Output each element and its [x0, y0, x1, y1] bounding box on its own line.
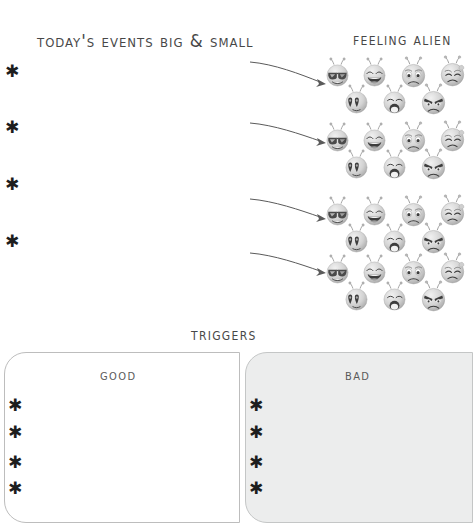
- good-trigger-bullet-marker[interactable]: ✱: [8, 398, 22, 412]
- bad-box-heading: Bad: [345, 366, 370, 384]
- alien-face-cluster-row-4: [322, 254, 472, 312]
- bad-trigger-bullet-marker[interactable]: ✱: [249, 398, 263, 412]
- alien-face-cluster-row-2: [322, 122, 472, 180]
- angry-alien-face[interactable]: [417, 280, 450, 313]
- good-trigger-bullet-marker[interactable]: ✱: [8, 481, 22, 495]
- event-bullet-marker[interactable]: ✱: [5, 120, 19, 134]
- shocked-alien-face[interactable]: [379, 84, 410, 115]
- event-bullet-marker[interactable]: ✱: [5, 177, 19, 191]
- good-trigger-bullet-marker[interactable]: ✱: [8, 425, 22, 439]
- shocked-alien-face[interactable]: [379, 281, 410, 312]
- alien-face-cluster-row-1: [322, 57, 472, 115]
- good-trigger-bullet-marker[interactable]: ✱: [8, 455, 22, 469]
- event-bullet-marker[interactable]: ✱: [5, 234, 19, 248]
- bad-trigger-bullet-marker[interactable]: ✱: [249, 455, 263, 469]
- heart-eyes-alien-face[interactable]: [341, 223, 372, 254]
- event-bullet-marker[interactable]: ✱: [5, 64, 19, 78]
- good-box-heading: Good: [100, 366, 136, 384]
- shocked-alien-face[interactable]: [379, 149, 410, 180]
- arrow-to-feeling-row-3: [248, 196, 330, 226]
- heart-eyes-alien-face[interactable]: [341, 281, 372, 312]
- bad-trigger-bullet-marker[interactable]: ✱: [249, 481, 263, 495]
- angry-alien-face[interactable]: [417, 83, 450, 116]
- shocked-alien-face[interactable]: [379, 223, 410, 254]
- page-title-events: Today's Events Big & Small: [37, 30, 254, 51]
- page-title-triggers: Triggers: [191, 324, 257, 344]
- heart-eyes-alien-face[interactable]: [341, 84, 372, 115]
- angry-alien-face[interactable]: [417, 148, 450, 181]
- arrow-to-feeling-row-4: [248, 250, 330, 280]
- angry-alien-face[interactable]: [417, 222, 450, 255]
- page-title-feeling-alien: Feeling alien: [353, 30, 452, 49]
- bad-trigger-bullet-marker[interactable]: ✱: [249, 425, 263, 439]
- arrow-to-feeling-row-1: [248, 58, 330, 90]
- alien-face-cluster-row-3: [322, 196, 472, 254]
- heart-eyes-alien-face[interactable]: [341, 149, 372, 180]
- arrow-to-feeling-row-2: [248, 120, 330, 150]
- worksheet-page: Today's Events Big & Small Feeling alien…: [0, 0, 475, 523]
